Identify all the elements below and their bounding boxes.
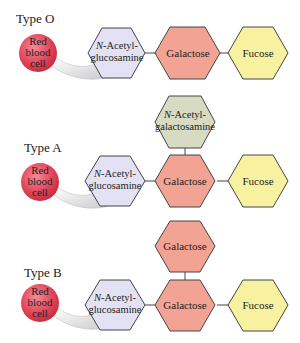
glucosamine-label: glucosamine	[88, 304, 141, 315]
n-acetyl-label: N-Acetyl-	[93, 168, 137, 179]
glucosamine-label: glucosamine	[88, 180, 141, 191]
blood-type-diagram: Type O Red blood cell N-Acetyl- glucosam…	[0, 0, 300, 343]
galactose-label: Galactose	[163, 299, 206, 311]
n-acetyl-label: N-Acetyl-	[93, 292, 137, 303]
fucose-label: Fucose	[242, 47, 273, 59]
cell-label-cell: cell	[32, 307, 48, 319]
fucose-label: Fucose	[242, 175, 273, 187]
galactose-label: Galactose	[163, 240, 206, 252]
glucosamine-label: glucosamine	[90, 52, 143, 63]
type-o-label: Type O	[16, 11, 54, 26]
type-b-label: Type B	[24, 265, 62, 280]
n-acetyl-label: N-Acetyl-	[163, 109, 207, 120]
n-acetyl-label: N-Acetyl-	[95, 40, 139, 51]
type-o-group: Type O Red blood cell N-Acetyl- glucosam…	[16, 11, 288, 79]
type-a-label: Type A	[24, 140, 62, 155]
cell-label-cell: cell	[30, 57, 46, 69]
cell-label-cell: cell	[32, 186, 48, 198]
galactose-label: Galactose	[166, 47, 209, 59]
type-b-group: Galactose Type B Red blood cell N-Acetyl…	[21, 221, 288, 331]
galactose-label: Galactose	[163, 175, 206, 187]
type-a-group: N-Acetyl- galactosamine Type A Red blood…	[21, 96, 288, 208]
fucose-label: Fucose	[242, 299, 273, 311]
galactosamine-label: galactosamine	[155, 121, 215, 132]
